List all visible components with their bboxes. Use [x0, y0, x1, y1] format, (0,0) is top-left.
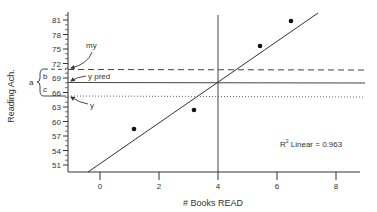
my-arrow [71, 52, 92, 68]
svg-text:8: 8 [334, 182, 339, 191]
brace-c-label: c [43, 85, 47, 94]
y-label: y [90, 101, 94, 110]
data-points [132, 19, 294, 132]
svg-text:2: 2 [157, 182, 162, 191]
svg-text:60: 60 [52, 118, 61, 127]
y-tick-labels: 51 54 57 60 63 66 69 72 75 78 81 [52, 16, 61, 170]
svg-text:72: 72 [52, 60, 61, 69]
y-arrow [71, 97, 88, 104]
svg-text:0: 0 [98, 182, 103, 191]
data-point [258, 44, 263, 49]
data-point [132, 127, 137, 132]
svg-text:54: 54 [52, 147, 61, 156]
y-axis-title: Reading Ach. [6, 69, 16, 123]
svg-text:81: 81 [52, 16, 61, 25]
data-point [192, 108, 197, 113]
svg-text:4: 4 [216, 182, 221, 191]
x-ticks [100, 172, 336, 180]
svg-text:57: 57 [52, 132, 61, 141]
r2-annotation: R2 Linear = 0.963 [280, 138, 343, 149]
svg-text:69: 69 [52, 74, 61, 83]
svg-text:78: 78 [52, 31, 61, 40]
svg-text:51: 51 [52, 161, 61, 170]
y-pred-arrow [71, 76, 86, 81]
my-label: my [86, 41, 97, 50]
svg-text:75: 75 [52, 45, 61, 54]
y-pred-label: y pred [88, 72, 110, 81]
x-axis-title: # Books READ [183, 198, 244, 208]
x-tick-labels: 0 2 4 6 8 [98, 182, 339, 191]
svg-text:63: 63 [52, 103, 61, 112]
scatter-chart: 51 54 57 60 63 66 69 72 75 78 81 0 2 4 6… [0, 0, 377, 212]
svg-text:6: 6 [275, 182, 280, 191]
my-line [68, 70, 365, 71]
y-ticks [63, 20, 68, 165]
brace-b-label: b [43, 72, 48, 81]
y-line [68, 96, 365, 97]
brace-a-label: a [29, 78, 34, 87]
data-point [289, 19, 294, 24]
